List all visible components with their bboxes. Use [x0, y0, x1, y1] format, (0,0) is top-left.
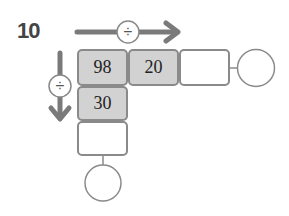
cell-right-result-input[interactable]	[179, 49, 230, 86]
divide-icon-horizontal: ÷	[117, 21, 139, 43]
cell-right: 20	[128, 49, 179, 86]
divide-icon-vertical: ÷	[49, 75, 71, 97]
cell-start: 98	[77, 49, 128, 86]
answer-circle-down-input[interactable]	[85, 165, 121, 201]
cell-down: 30	[77, 86, 128, 121]
answer-circle-right-input[interactable]	[238, 50, 275, 87]
diagram-lines	[0, 0, 289, 216]
cell-down-result-input[interactable]	[77, 121, 128, 156]
